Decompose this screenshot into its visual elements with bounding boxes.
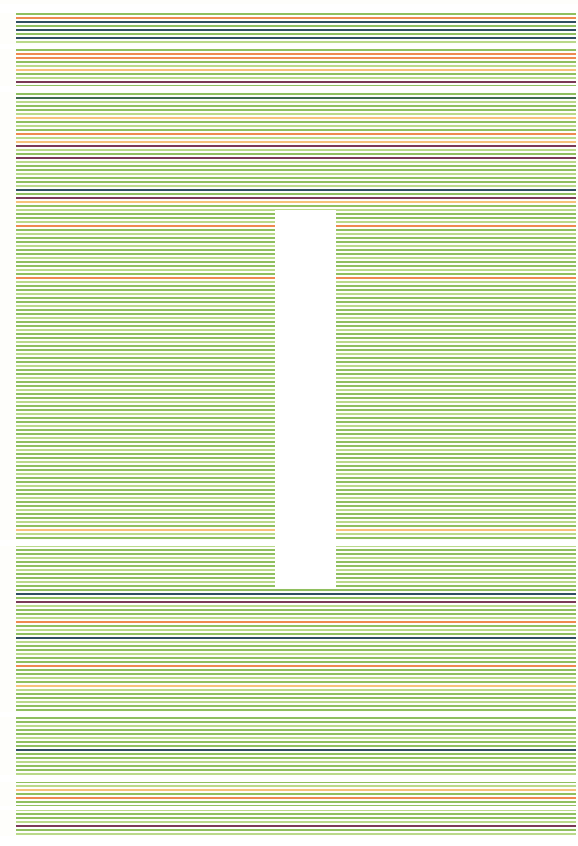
stripe-line <box>16 693 576 695</box>
stripe-line <box>16 741 576 743</box>
stripe-line <box>16 77 576 79</box>
stripe-line <box>16 705 576 707</box>
stripe-line <box>16 605 576 607</box>
white-band <box>0 836 578 846</box>
stripe-line <box>16 797 576 799</box>
stripe-line <box>16 721 576 723</box>
stripe-line <box>16 65 576 67</box>
stripe-line <box>16 641 576 643</box>
stripe-line <box>16 697 576 699</box>
stripe-line <box>16 173 576 175</box>
stripe-line <box>16 753 576 755</box>
stripe-line <box>16 201 576 203</box>
stripe-line <box>16 677 576 679</box>
stripe-line <box>16 621 576 623</box>
stripe-line <box>16 133 576 135</box>
stripe-line <box>16 145 576 147</box>
stripe-line <box>16 833 576 835</box>
stripe-line <box>16 29 576 31</box>
stripe-line <box>16 825 576 827</box>
stripe-line <box>16 161 576 163</box>
stripe-line <box>16 53 576 55</box>
stripe-line <box>16 189 576 191</box>
stripe-line <box>16 33 576 35</box>
stripe-line <box>16 665 576 667</box>
stripe-line <box>16 661 576 663</box>
stripe-line <box>16 149 576 151</box>
stripe-line <box>16 785 576 787</box>
stripe-line <box>16 41 576 43</box>
stripe-line <box>16 169 576 171</box>
stripe-line <box>16 829 576 831</box>
stripe-line <box>16 669 576 671</box>
stripe-line <box>16 61 576 63</box>
stripe-line <box>16 733 576 735</box>
stripe-line <box>16 97 576 99</box>
stripe-line <box>16 653 576 655</box>
stripe-line <box>16 709 576 711</box>
stripe-line <box>16 185 576 187</box>
stripe-line <box>16 81 576 83</box>
stripe-line <box>16 117 576 119</box>
stripe-line <box>16 701 576 703</box>
stripe-line <box>16 181 576 183</box>
stripe-line <box>16 749 576 751</box>
stripe-line <box>16 109 576 111</box>
stripe-line <box>16 681 576 683</box>
stripe-line <box>16 625 576 627</box>
stripe-line <box>16 137 576 139</box>
stripe-line <box>16 113 576 115</box>
stripe-line <box>16 769 576 771</box>
stripe-line <box>16 817 576 819</box>
stripe-line <box>16 101 576 103</box>
stripe-line <box>16 673 576 675</box>
stripe-line <box>16 813 576 815</box>
artwork-canvas <box>0 0 578 846</box>
stripe-line <box>16 37 576 39</box>
stripe-line <box>16 637 576 639</box>
white-band <box>0 44 578 49</box>
stripe-line <box>16 593 576 595</box>
stripe-line <box>16 657 576 659</box>
stripe-line <box>16 737 576 739</box>
stripe-line <box>16 57 576 59</box>
stripe-line <box>16 613 576 615</box>
stripe-line <box>16 129 576 131</box>
stripe-line <box>16 125 576 127</box>
white-band <box>0 775 578 782</box>
white-band <box>0 712 578 717</box>
stripe-line <box>16 689 576 691</box>
stripe-line <box>16 789 576 791</box>
stripe-line <box>16 633 576 635</box>
stripe-line <box>16 93 576 95</box>
stripe-line <box>16 801 576 803</box>
stripe-line <box>16 121 576 123</box>
white-rectangle <box>275 210 336 588</box>
stripe-line <box>16 157 576 159</box>
stripe-line <box>16 597 576 599</box>
stripe-line <box>16 73 576 75</box>
stripe-line <box>16 153 576 155</box>
stripe-line <box>16 17 576 19</box>
stripe-line <box>16 193 576 195</box>
stripe-line <box>16 21 576 23</box>
white-band <box>0 86 578 92</box>
stripe-line <box>16 177 576 179</box>
stripe-line <box>16 13 576 15</box>
stripe-line <box>16 761 576 763</box>
stripe-line <box>16 105 576 107</box>
stripe-line <box>16 205 576 207</box>
stripe-line <box>16 717 576 719</box>
stripe-line <box>16 765 576 767</box>
white-band <box>0 806 578 810</box>
stripe-line <box>16 25 576 27</box>
stripe-line <box>16 165 576 167</box>
stripe-line <box>16 49 576 51</box>
stripe-line <box>16 609 576 611</box>
stripe-line <box>16 197 576 199</box>
stripe-line <box>16 617 576 619</box>
stripe-line <box>16 793 576 795</box>
stripe-line <box>16 601 576 603</box>
stripe-line <box>16 725 576 727</box>
stripe-line <box>16 729 576 731</box>
